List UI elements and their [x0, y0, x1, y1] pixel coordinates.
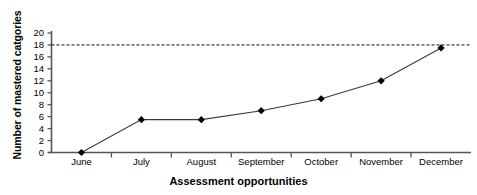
x-tick-label: August	[187, 156, 217, 167]
x-axis-title: Assessment opportunities	[0, 175, 477, 187]
x-axis-category-labels: JuneJulyAugustSeptemberOctoberNovemberDe…	[0, 0, 477, 195]
x-tick-label: July	[133, 156, 150, 167]
x-tick-label: October	[304, 156, 338, 167]
x-tick-label: June	[71, 156, 92, 167]
x-tick-label: September	[238, 156, 284, 167]
x-tick-label: November	[359, 156, 403, 167]
chart-container: Number of mastered catgories 02468101214…	[0, 0, 477, 195]
x-tick-label: December	[419, 156, 463, 167]
